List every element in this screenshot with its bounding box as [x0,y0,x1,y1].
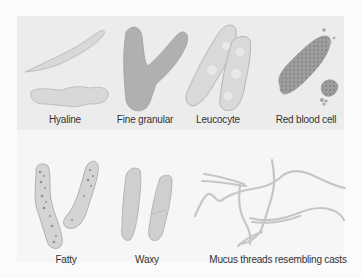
label-red-blood-cell: Red blood cell [276,114,337,125]
hyaline-cast [25,31,108,107]
label-fatty: Fatty [55,254,76,265]
fine-granular-cast [124,27,188,111]
red-blood-cell-cast [279,28,338,105]
leucocyte-cast [186,25,251,110]
label-hyaline: Hyaline [49,114,81,125]
label-fine-granular: Fine granular [117,114,173,125]
mucus-threads [195,160,345,246]
label-mucus-threads: Mucus threads resembling casts [209,254,346,265]
waxy-cast [121,168,172,241]
casts-illustration [0,0,361,278]
label-waxy: Waxy [135,254,159,265]
fatty-cast [35,161,98,248]
label-leucocyte: Leucocyte [196,114,240,125]
